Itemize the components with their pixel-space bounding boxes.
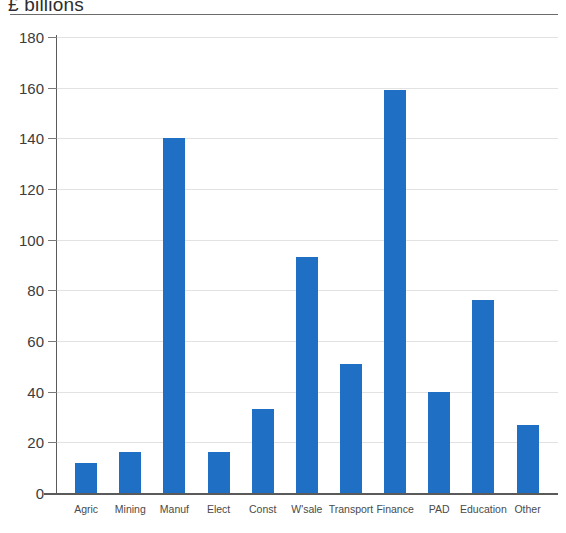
bar-series xyxy=(57,37,558,493)
y-tick-label: 60 xyxy=(0,333,44,350)
y-tick-mark xyxy=(48,442,57,443)
y-tick-label: 20 xyxy=(0,434,44,451)
y-tick-mark xyxy=(48,290,57,291)
y-tick-label: 160 xyxy=(0,79,44,96)
y-tick-mark xyxy=(48,392,57,393)
y-axis-labels: 020406080100120140160180 xyxy=(0,0,44,533)
bar xyxy=(472,300,494,493)
y-tick-mark xyxy=(48,88,57,89)
y-tick-label: 0 xyxy=(0,485,44,502)
y-tick-mark xyxy=(48,189,57,190)
y-tick-label: 140 xyxy=(0,130,44,147)
bar xyxy=(208,452,230,493)
bar xyxy=(517,425,539,493)
y-tick-label: 180 xyxy=(0,29,44,46)
bar xyxy=(119,452,141,493)
bar xyxy=(384,90,406,493)
bar xyxy=(428,392,450,493)
x-axis-labels: AgricMiningManufElectConstW'saleTranspor… xyxy=(57,503,558,523)
y-tick-mark xyxy=(48,240,57,241)
y-tick-label: 120 xyxy=(0,181,44,198)
x-axis-line xyxy=(44,493,558,495)
chart-page: £ billions 020406080100120140160180 Agri… xyxy=(0,0,566,533)
y-tick-label: 100 xyxy=(0,231,44,248)
y-tick-label: 80 xyxy=(0,282,44,299)
bar xyxy=(296,257,318,493)
title-divider xyxy=(10,14,558,15)
y-tick-mark xyxy=(48,37,57,38)
bar xyxy=(75,463,97,493)
y-tick-mark xyxy=(48,138,57,139)
y-tick-label: 40 xyxy=(0,383,44,400)
bar xyxy=(252,409,274,493)
bar xyxy=(163,138,185,493)
x-tick-label: Other xyxy=(493,503,563,515)
y-tick-mark xyxy=(48,341,57,342)
bar xyxy=(340,364,362,493)
